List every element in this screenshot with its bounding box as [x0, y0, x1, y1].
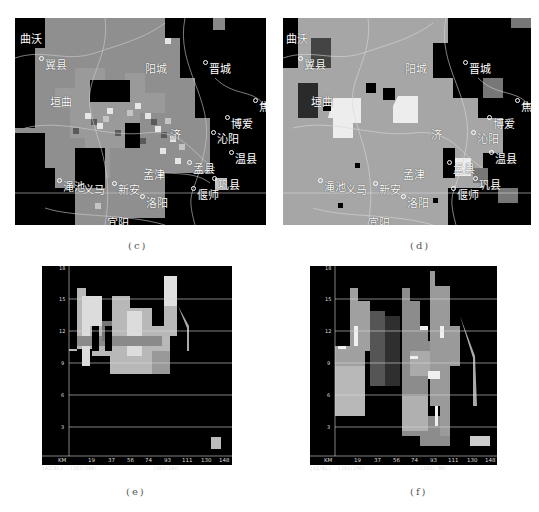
caption-e: (e) — [126, 486, 146, 497]
map-place-label: 偃师 — [451, 186, 479, 202]
map-place-name: 新安 — [118, 184, 140, 197]
x-unit: KM — [324, 457, 332, 463]
map-place-name: 温县 — [495, 153, 517, 166]
x-tick: 56 — [393, 457, 400, 463]
footer-right-e: (283/100) — [153, 465, 180, 471]
map-place-name: 孟津 — [403, 169, 425, 182]
map-place-name: 偃师 — [197, 189, 219, 202]
caption-f: (f) — [410, 486, 428, 497]
map-place-name: 垣曲 — [50, 96, 72, 109]
map-place-name: 翼县 — [304, 59, 326, 72]
footer-azel-e: (AZ/EL) — [42, 465, 63, 471]
x-tick: 148 — [219, 457, 230, 463]
x-tick: 130 — [467, 457, 478, 463]
x-tick: 37 — [374, 457, 381, 463]
map-place-label: 洛阳 — [140, 194, 168, 210]
x-tick: 74 — [145, 457, 152, 463]
map-place-name: 阳城 — [405, 63, 427, 76]
y-tick: 6 — [327, 392, 330, 398]
x-tick: 93 — [164, 457, 171, 463]
map-place-name: 焦 — [521, 101, 531, 114]
y-tick: 9 — [61, 360, 64, 366]
map-place-label: 渑池 — [57, 178, 85, 194]
map-place-label: 孟县 — [187, 160, 215, 176]
city-marker-icon — [253, 98, 258, 103]
map-place-label: 温县 — [489, 150, 517, 166]
x-tick: 111 — [182, 457, 193, 463]
map-place-name: 济 — [431, 129, 442, 142]
map-place-label: 温县 — [229, 150, 257, 166]
city-marker-icon — [39, 56, 44, 61]
map-place-name: 义马 — [83, 184, 105, 197]
map-place-label: 宜阳 — [368, 214, 390, 225]
map-place-name: 渑池 — [324, 181, 346, 194]
footer-right-f: (283/ 99) — [420, 465, 447, 471]
x-unit: KM — [58, 457, 66, 463]
map-place-label: 垣曲 — [50, 93, 72, 109]
map-place-name: 沁阳 — [217, 133, 239, 146]
map-place-name: 晋城 — [209, 63, 231, 76]
y-tick: 15 — [59, 296, 65, 302]
y-tick: 12 — [325, 328, 331, 334]
map-place-label: 曲沃 — [20, 30, 42, 46]
map-place-name: 偃师 — [457, 189, 479, 202]
x-tick: 74 — [411, 457, 418, 463]
city-marker-icon — [373, 181, 378, 186]
map-place-label: 新安 — [373, 181, 401, 197]
city-marker-icon — [471, 130, 476, 135]
x-tick: 130 — [201, 457, 212, 463]
rhi-plot-f: 18 15 12 9 6 3 KM 19 37 56 74 93 111 130… — [310, 266, 497, 465]
city-marker-icon — [515, 98, 520, 103]
x-tick: 56 — [127, 457, 134, 463]
map-place-label: 晋城 — [203, 60, 231, 76]
rhi-echo-f — [310, 266, 497, 465]
map-place-label: 博爱 — [487, 115, 515, 131]
map-place-label: 翼县 — [39, 56, 67, 72]
city-marker-icon — [401, 194, 406, 199]
footer-azel-f: (AZ/EL) — [310, 465, 331, 471]
footer-mid-e: (283/200) — [70, 465, 97, 471]
map-place-label: 宜阳 — [107, 214, 129, 225]
city-marker-icon — [229, 150, 234, 155]
city-marker-icon — [212, 176, 217, 181]
map-place-name: 焦 — [259, 101, 266, 114]
x-tick: 37 — [108, 457, 115, 463]
city-marker-icon — [140, 194, 145, 199]
y-tick: 18 — [325, 266, 331, 271]
map-place-name: 温县 — [235, 153, 257, 166]
map-place-name: 翼县 — [45, 59, 67, 72]
city-marker-icon — [473, 176, 478, 181]
city-marker-icon — [451, 186, 456, 191]
city-marker-icon — [225, 115, 230, 120]
city-marker-icon — [112, 181, 117, 186]
city-marker-icon — [57, 178, 62, 183]
map-place-name: 孟津 — [143, 169, 165, 182]
y-tick: 3 — [327, 424, 330, 430]
map-place-label: 济 — [170, 126, 181, 142]
map-place-name: 沁阳 — [477, 133, 499, 146]
map-place-label: 孟津 — [403, 166, 425, 182]
caption-d: (d) — [410, 240, 430, 251]
caption-c: (c) — [128, 240, 147, 251]
city-marker-icon — [489, 150, 494, 155]
map-place-label: 沁阳 — [211, 130, 239, 146]
map-place-name: 洛阳 — [146, 197, 168, 210]
map-place-name: 济 — [170, 129, 181, 142]
map-place-name: 义马 — [345, 184, 367, 197]
map-place-label: 焦 — [515, 98, 531, 114]
rhi-plot-e: 18 15 12 9 6 3 KM 19 37 56 74 93 111 130… — [42, 266, 232, 465]
map-place-label: 阳城 — [405, 60, 427, 76]
map-place-label: 义马 — [345, 181, 367, 197]
city-marker-icon — [187, 160, 192, 165]
map-place-label: 阳城 — [145, 60, 167, 76]
map-place-name: 垣曲 — [311, 96, 333, 109]
map-place-name: 孟县 — [453, 163, 475, 176]
map-place-label: 偃师 — [191, 186, 219, 202]
map-place-name: 孟县 — [193, 163, 215, 176]
map-place-name: 洛阳 — [407, 197, 429, 210]
y-tick: 15 — [325, 296, 331, 302]
footer-mid-f: (283/190) — [338, 465, 365, 471]
y-tick: 12 — [59, 328, 65, 334]
map-place-name: 曲沃 — [20, 33, 42, 46]
y-tick: 3 — [61, 424, 64, 430]
